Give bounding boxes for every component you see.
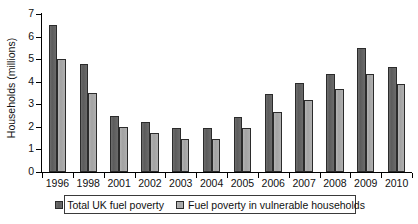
x-tick-label-2007: 2007	[289, 177, 320, 189]
x-tick-label-1996: 1996	[42, 177, 73, 189]
chart-legend: Total UK fuel poverty Fuel poverty in vu…	[64, 195, 356, 214]
bar-2003-series-1	[181, 139, 190, 172]
x-tick-label-2010: 2010	[381, 177, 412, 189]
bar-2007-series-1	[304, 100, 313, 172]
y-tick-mark	[36, 149, 41, 150]
bar-2001-series-1	[119, 127, 128, 172]
x-tick-mark	[412, 173, 413, 178]
bar-2007-series-0	[295, 83, 304, 172]
x-tick-label-2009: 2009	[350, 177, 381, 189]
bar-2002-series-1	[150, 133, 159, 173]
bar-2006-series-0	[265, 94, 274, 172]
bar-2003-series-0	[172, 128, 181, 172]
y-tick-label: 2	[18, 121, 34, 132]
x-tick-label-2004: 2004	[196, 177, 227, 189]
y-tick-label: 7	[18, 8, 34, 19]
bar-2009-series-0	[357, 48, 366, 172]
bar-2005-series-0	[234, 117, 243, 172]
y-tick-mark	[36, 37, 41, 38]
x-tick-label-1998: 1998	[73, 177, 104, 189]
legend-item-total-uk-fuel-poverty: Total UK fuel poverty	[55, 199, 164, 211]
legend-item-vulnerable-households: Fuel poverty in vulnerable households	[176, 199, 365, 211]
bar-2008-series-1	[335, 89, 344, 173]
y-tick-mark	[36, 172, 41, 173]
y-tick-mark	[36, 82, 41, 83]
y-tick-label: 1	[18, 143, 34, 154]
bar-chart: Households (millions) 01234567 199619982…	[0, 0, 418, 224]
legend-swatch-icon-series-0	[55, 201, 63, 209]
x-tick-label-2002: 2002	[135, 177, 166, 189]
y-tick-label: 4	[18, 76, 34, 87]
y-tick-label: 3	[18, 98, 34, 109]
y-tick-label: 0	[18, 166, 34, 177]
bar-2004-series-0	[203, 128, 212, 172]
bar-2008-series-0	[326, 74, 335, 172]
bar-1996-series-0	[49, 25, 58, 172]
legend-label-series-0: Total UK fuel poverty	[67, 199, 164, 211]
bar-2005-series-1	[242, 128, 251, 172]
bar-2009-series-1	[366, 74, 375, 172]
bar-2006-series-1	[273, 112, 282, 172]
y-tick-label: 5	[18, 53, 34, 64]
y-tick-mark	[36, 14, 41, 15]
y-tick-label: 6	[18, 31, 34, 42]
y-tick-mark	[36, 127, 41, 128]
x-tick-label-2005: 2005	[227, 177, 258, 189]
y-tick-mark	[36, 59, 41, 60]
bar-2001-series-0	[110, 116, 119, 172]
bar-1998-series-1	[88, 93, 97, 172]
bar-2010-series-0	[388, 67, 397, 172]
bar-2010-series-1	[397, 84, 406, 172]
y-tick-mark	[36, 104, 41, 105]
x-tick-label-2001: 2001	[104, 177, 135, 189]
x-tick-label-2008: 2008	[320, 177, 351, 189]
bar-1998-series-0	[80, 64, 89, 172]
bar-2002-series-0	[141, 122, 150, 172]
legend-label-series-1: Fuel poverty in vulnerable households	[188, 199, 365, 211]
legend-swatch-icon-series-1	[176, 201, 184, 209]
bar-1996-series-1	[57, 59, 66, 172]
bar-2004-series-1	[212, 139, 221, 172]
x-tick-label-2003: 2003	[165, 177, 196, 189]
plot-area	[42, 14, 412, 172]
x-tick-label-2006: 2006	[258, 177, 289, 189]
